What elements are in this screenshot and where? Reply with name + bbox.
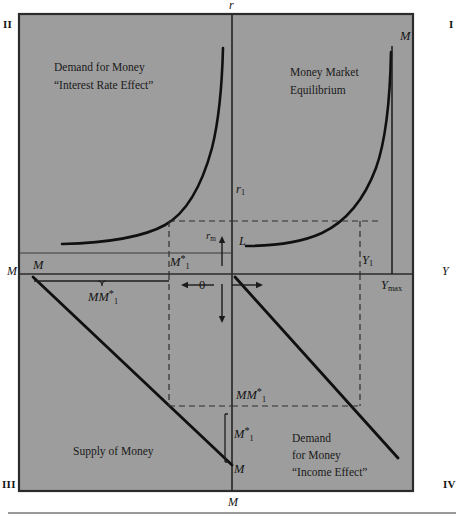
quadrant-numeral-II: II (3, 18, 12, 30)
label-Y-max-subscript: max (388, 284, 402, 293)
axis-label-Y-right: Y (442, 265, 449, 278)
quadrant-III-title-line1: Supply of Money (73, 445, 154, 458)
label-Y-max: Ymax (381, 278, 402, 294)
quadrant-IV-title-line3: “Income Effect” (292, 466, 367, 479)
quadrant-II-title-line1: Demand for Money (54, 61, 145, 74)
label-Y1-text: Y (362, 253, 369, 267)
label-L-curve: L (239, 234, 246, 248)
label-M-bottom-point: M (234, 462, 244, 476)
axis-label-M-left: M (7, 265, 17, 278)
label-M-star-1-upper-subscript: 1 (186, 262, 190, 271)
quadrant-numeral-I: I (449, 18, 454, 30)
label-Y-max-text: Y (381, 278, 388, 292)
quadrant-IV-title-line1: Demand (292, 432, 331, 445)
axis-label-M-bottom: M (228, 496, 238, 509)
quadrant-II-title-line2: “Interest Rate Effect” (54, 79, 153, 92)
label-Y1: Y1 (362, 253, 373, 269)
label-MM-star-1-upper: MM*1 (88, 288, 118, 306)
label-MM-star-1-lower-text: MM (236, 388, 257, 402)
label-r-m-subscript: m (210, 235, 216, 243)
label-MM-star-1-upper-subscript: 1 (114, 297, 118, 306)
label-M-star-1-upper-text: M (170, 255, 180, 269)
label-M-top-right: M (400, 29, 410, 43)
quadrant-numeral-IV: IV (443, 478, 456, 490)
page-separator-rule (8, 512, 456, 514)
label-M-left-point: M (33, 258, 43, 272)
label-M-star-1-lower-text: M (234, 427, 244, 441)
axis-label-r-top: r (229, 0, 234, 12)
label-M-star-1-upper: M*1 (170, 253, 190, 271)
label-MM-star-1-lower: MM*1 (236, 386, 266, 404)
origin-label-zero: 0 (199, 278, 205, 292)
quadrant-numeral-III: III (2, 478, 16, 490)
label-MM-star-1-upper-text: MM (88, 290, 109, 304)
money-market-four-quadrant-figure: II I III IV Demand for Money “Interest R… (0, 0, 464, 521)
quadrant-I-title-line2: Equilibrium (290, 84, 346, 97)
quadrant-IV-title-line2: for Money (292, 449, 341, 462)
label-M-star-1-lower: M*1 (234, 425, 254, 443)
label-Y1-subscript: 1 (369, 259, 373, 268)
label-r1: r1 (236, 182, 245, 198)
quadrant-I-title-line1: Money Market (290, 66, 359, 79)
label-r-m: rm (206, 229, 216, 243)
label-MM-star-1-lower-subscript: 1 (262, 395, 266, 404)
label-r1-subscript: 1 (241, 188, 245, 197)
label-M-star-1-lower-subscript: 1 (250, 434, 254, 443)
